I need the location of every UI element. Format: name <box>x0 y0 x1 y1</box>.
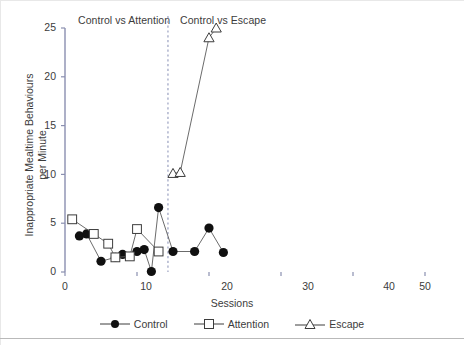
axes-layer <box>61 28 425 276</box>
data-point-open-triangle <box>175 167 185 176</box>
legend-item-control[interactable]: Control <box>100 318 168 330</box>
data-point-filled-circle <box>96 257 105 266</box>
chart-legend: Control Attention Escape <box>0 318 464 330</box>
legend-marker-filled-circle-icon <box>100 318 130 330</box>
data-point-filled-circle <box>219 248 228 257</box>
legend-marker-open-square-icon <box>194 318 224 330</box>
data-point-open-square <box>154 247 163 256</box>
data-point-filled-circle <box>204 223 213 232</box>
chart-figure: Control vs Attention Control vs Escape I… <box>0 0 464 345</box>
data-point-filled-circle <box>154 203 163 212</box>
legend-item-escape[interactable]: Escape <box>295 318 364 330</box>
data-point-open-triangle <box>204 33 214 42</box>
data-point-open-square <box>125 252 134 261</box>
legend-item-attention[interactable]: Attention <box>194 318 269 330</box>
data-point-open-square <box>104 239 113 248</box>
legend-label-attention: Attention <box>228 318 269 330</box>
data-point-filled-circle <box>168 247 177 256</box>
data-point-open-triangle <box>211 23 221 32</box>
data-point-open-square <box>133 225 142 234</box>
data-point-open-square <box>89 230 98 239</box>
legend-label-escape: Escape <box>329 318 364 330</box>
series-control <box>75 203 228 276</box>
data-point-open-square <box>68 215 77 224</box>
chart-plot-area <box>0 0 464 345</box>
data-point-filled-circle <box>140 245 149 254</box>
legend-marker-open-triangle-icon <box>295 318 325 330</box>
series-escape <box>168 23 221 177</box>
legend-label-control: Control <box>134 318 168 330</box>
data-series-layer <box>68 23 228 276</box>
data-point-filled-circle <box>147 267 156 276</box>
data-point-open-square <box>111 253 120 262</box>
data-point-filled-circle <box>190 247 199 256</box>
series-line-escape <box>173 28 216 173</box>
figure-bottom-border <box>0 338 464 339</box>
